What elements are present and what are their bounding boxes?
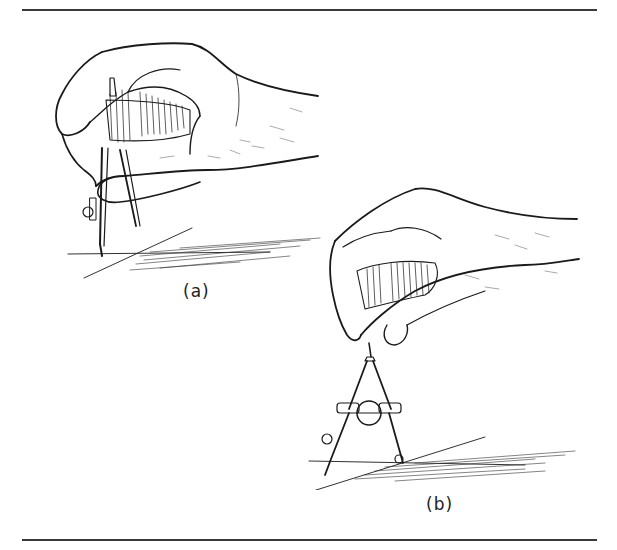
caption-a: (a) (183, 281, 210, 301)
bottom-rule (22, 539, 597, 541)
caption-b: (b) (426, 494, 453, 514)
figure-a-hand-compass (40, 30, 330, 280)
figure-b-hand-compass (295, 175, 595, 490)
top-rule (22, 9, 597, 11)
